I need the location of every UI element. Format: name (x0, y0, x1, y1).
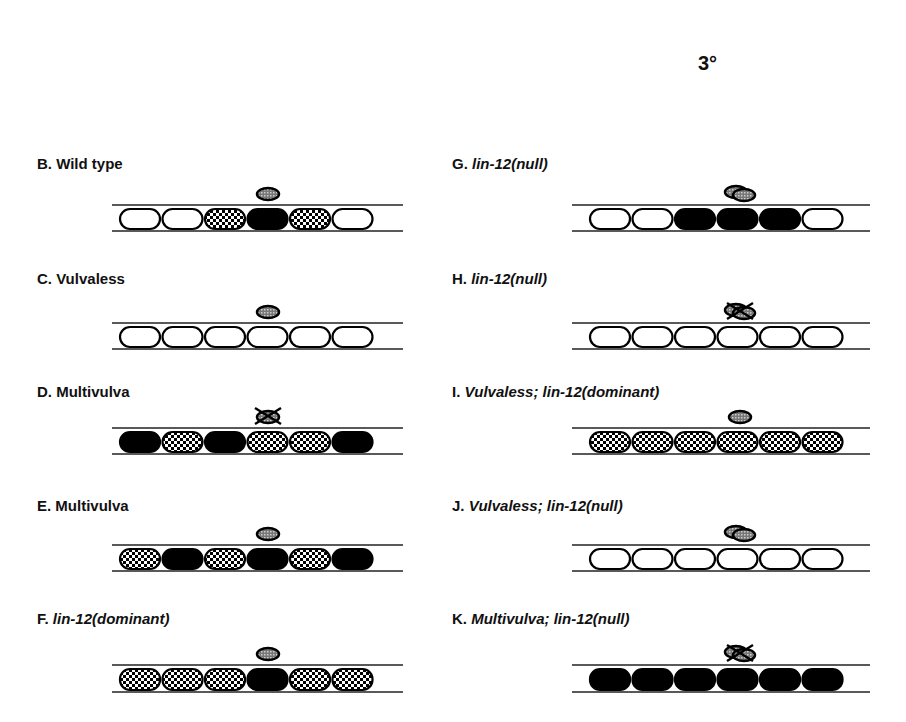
vpc-cell-primary (633, 669, 673, 690)
vpc-cell-primary (803, 669, 843, 690)
vpc-cell-primary (760, 669, 800, 690)
vpc-cell-primary (590, 669, 630, 690)
vpc-cell-primary (718, 669, 758, 690)
vpc-cell-primary (675, 669, 715, 690)
panel-diagram-k (0, 0, 906, 722)
ablated-anchor-cell-icon (725, 645, 755, 661)
